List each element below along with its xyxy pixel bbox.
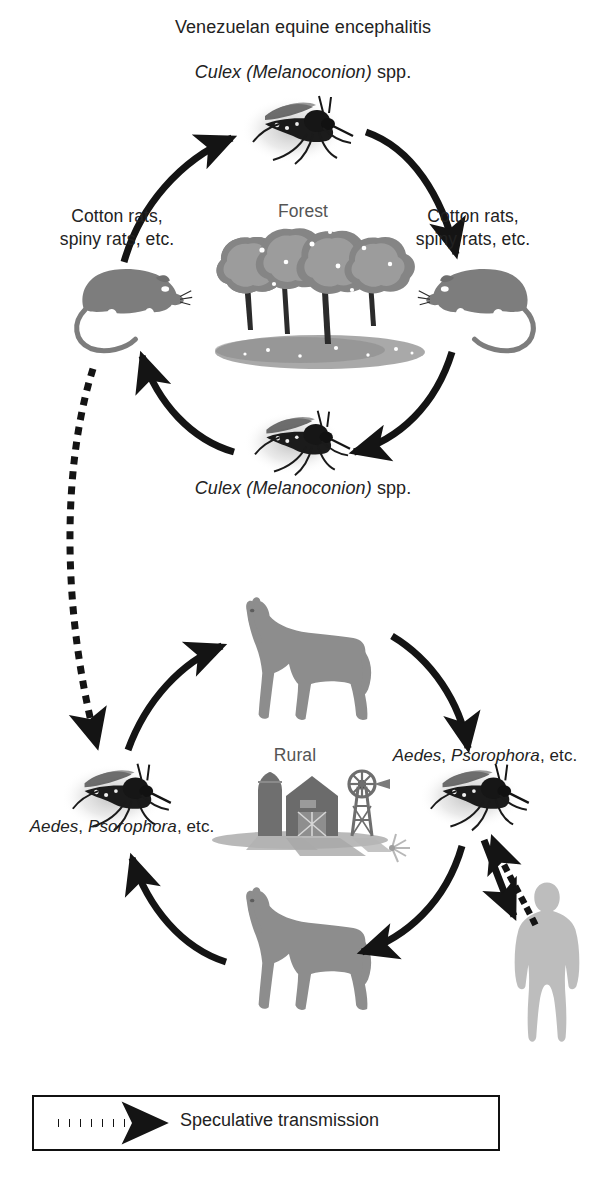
- windmill-icon: [349, 771, 390, 836]
- psorophora-genus-left: Psorophora: [88, 817, 177, 836]
- aedes-suffix-left: , etc.: [177, 817, 214, 836]
- culex-genus-top: Culex (Melanoconion): [195, 62, 372, 82]
- transmission-cycle-figure: Venezuelan equine encephalitis Culex (Me…: [0, 0, 606, 1177]
- forest-habitat-label: Forest: [243, 200, 363, 223]
- barn-icon: [286, 776, 338, 836]
- silo-icon: [258, 772, 282, 836]
- aedes-genus-left: Aedes: [30, 817, 79, 836]
- arrow-horse-top-to-aedes-right: [392, 636, 468, 748]
- arrow-mosquito-bottom-to-rat-left: [142, 356, 234, 452]
- rat-icon-right: [418, 269, 533, 351]
- host-label-left: Cotton rats, spiny rats, etc.: [22, 205, 212, 251]
- arrow-horse-bottom-to-aedes-left: [132, 858, 226, 962]
- arrow-aedes-left-to-horse-top: [128, 646, 222, 750]
- culex-top-label: Culex (Melanoconion) spp.: [0, 61, 606, 84]
- aedes-label-right: Aedes, Psorophora, etc.: [370, 745, 600, 767]
- figure-title: Venezuelan equine encephalitis: [0, 16, 606, 39]
- rat-icon-left: [77, 269, 192, 351]
- arrow-speculative-rat-to-aedes: [70, 372, 96, 742]
- horse-icon-bottom: [246, 887, 371, 1010]
- psorophora-genus-right: Psorophora: [451, 746, 540, 765]
- culex-suffix-top: spp.: [377, 62, 411, 82]
- horse-icon-top: [246, 597, 371, 720]
- mosquito-icon-forest-top: [241, 96, 353, 164]
- culex-bottom-label: Culex (Melanoconion) spp.: [0, 477, 606, 500]
- legend-speculative-label: Speculative transmission: [180, 1110, 480, 1131]
- aedes-suffix-right: , etc.: [540, 746, 577, 765]
- culex-genus-bottom: Culex (Melanoconion): [195, 478, 372, 498]
- mosquito-icon-rural-right: [419, 764, 529, 831]
- aedes-label-left: Aedes, Psorophora, etc.: [2, 816, 242, 838]
- aedes-sep-left: ,: [78, 817, 88, 836]
- human-icon: [515, 882, 580, 1041]
- aedes-sep-right: ,: [441, 746, 451, 765]
- culex-suffix-bottom: spp.: [377, 478, 411, 498]
- arrow-aedes-right-to-horse-bottom: [362, 846, 462, 952]
- aedes-genus-right: Aedes: [393, 746, 442, 765]
- mosquito-icon-forest-bottom: [244, 411, 350, 476]
- rural-habitat-label: Rural: [240, 744, 350, 767]
- diagram-canvas: [0, 0, 606, 1177]
- host-label-right: Cotton rats, spiny rats, etc.: [378, 205, 568, 251]
